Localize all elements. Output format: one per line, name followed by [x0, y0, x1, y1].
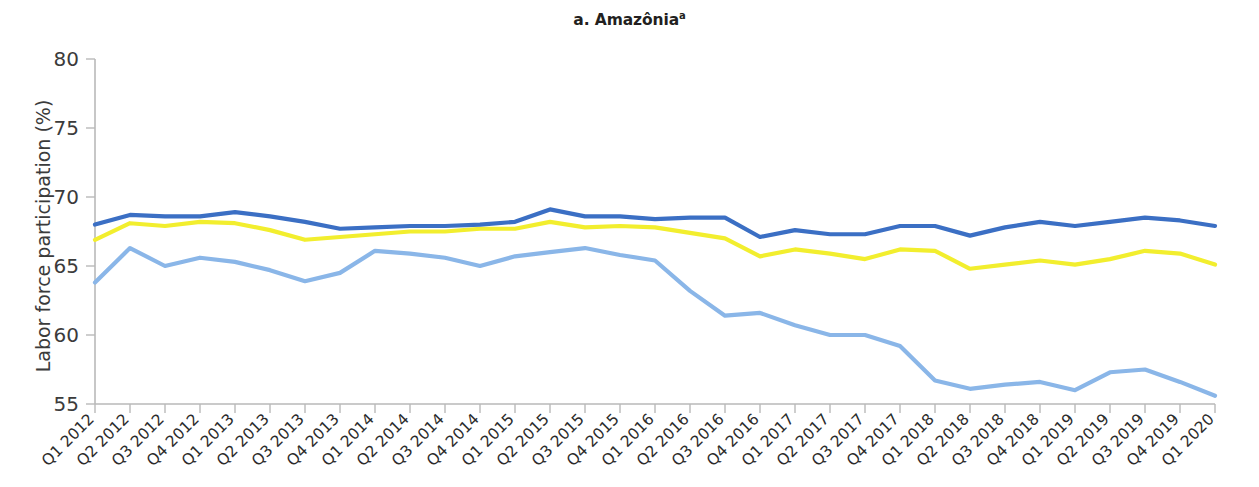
chart-series-group [95, 209, 1215, 395]
y-tick-label: 55 [54, 392, 79, 416]
y-tick-label: 70 [54, 185, 79, 209]
y-tick-label: 75 [54, 116, 79, 140]
y-axis-ticks: 556065707580 [54, 47, 95, 416]
y-tick-label: 65 [54, 254, 79, 278]
chart-container: a. Amazôniaa Labor force participation (… [0, 0, 1259, 487]
y-tick-label: 80 [54, 47, 79, 71]
x-axis-labels: Q1 2012Q2 2012Q3 2012Q4 2012Q1 2013Q2 20… [38, 410, 1218, 470]
y-tick-label: 60 [54, 323, 79, 347]
series-light-blue [95, 248, 1215, 396]
series-dark-blue [95, 209, 1215, 237]
chart-plot-svg: 556065707580 Q1 2012Q2 2012Q3 2012Q4 201… [0, 0, 1259, 487]
x-axis-ticks [95, 404, 1215, 413]
